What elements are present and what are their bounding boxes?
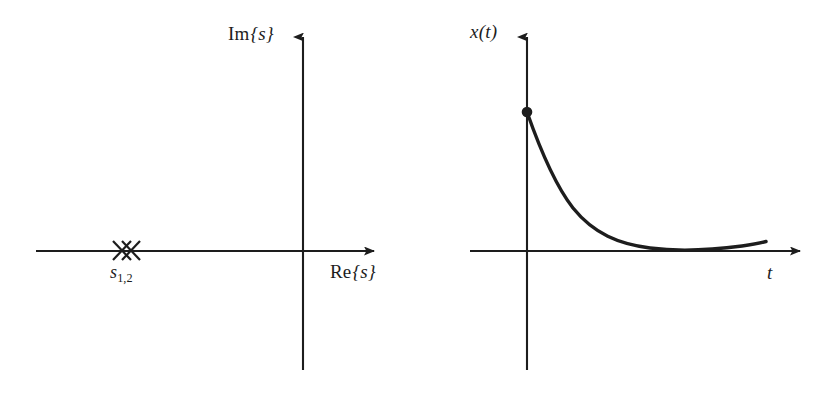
amplitude-axis-label: x(t): [470, 22, 497, 41]
s-plane-panel: Im{s} Re{s} s1,2: [0, 0, 412, 394]
response-curve: [527, 112, 766, 250]
real-axis-label: Re{s}: [330, 262, 376, 281]
time-axis-label-text: t: [767, 262, 772, 283]
imaginary-axis-label-text: Im: [228, 23, 250, 44]
time-response-panel: x(t) t: [412, 0, 825, 394]
time-response-canvas: [412, 0, 825, 394]
real-axis-label-text: Re: [330, 261, 352, 282]
figure-root: Im{s} Re{s} s1,2: [0, 0, 825, 394]
time-axis-label: t: [767, 263, 772, 282]
s-plane-canvas: [0, 0, 412, 394]
imaginary-axis-label: Im{s}: [228, 24, 274, 43]
pole-label-subscript: 1,2: [117, 271, 132, 285]
pole-label-symbol: s: [110, 262, 117, 282]
amplitude-axis-label-text: x: [470, 21, 479, 42]
initial-value-dot: [522, 107, 533, 118]
amplitude-axis-label-arg: (t): [479, 21, 498, 42]
pole-label: s1,2: [110, 263, 132, 281]
real-axis-label-arg: {s}: [353, 261, 376, 282]
imaginary-axis-label-arg: {s}: [251, 23, 274, 44]
